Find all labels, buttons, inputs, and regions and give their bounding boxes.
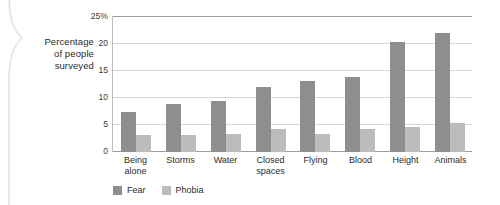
bar-phobia-animals[interactable] [450, 123, 465, 152]
y-tick-label-10: 10 [98, 92, 108, 102]
x-label-blood: Blood [338, 155, 383, 176]
x-label-line: Storms [158, 155, 203, 166]
bar-fear-animals[interactable] [435, 33, 450, 152]
y-tick-label-15: 15 [98, 65, 108, 75]
bar-group-animals [427, 16, 472, 152]
bar-fear-flying[interactable] [300, 81, 315, 152]
chart-screenshot: Percentage of people surveyed 25% 20 15 … [0, 0, 500, 205]
legend-item-phobia[interactable]: Phobia [162, 185, 204, 195]
y-tick-label-5: 5 [103, 119, 108, 129]
legend-item-fear[interactable]: Fear [113, 185, 146, 195]
bar-phobia-flying[interactable] [315, 134, 330, 152]
legend-swatch-fear-icon [113, 186, 122, 195]
x-label-line: Animals [428, 155, 473, 166]
bar-fear-water[interactable] [211, 101, 226, 152]
y-tick-label-20: 20 [98, 38, 108, 48]
chart-legend: Fear Phobia [113, 185, 204, 195]
bar-group-closed-spaces [248, 16, 293, 152]
x-label-height: Height [383, 155, 428, 176]
y-axis-title: Percentage of people surveyed [22, 36, 94, 72]
bar-phobia-closed-spaces[interactable] [271, 129, 286, 152]
bar-phobia-being-alone[interactable] [136, 135, 151, 152]
x-label-animals: Animals [428, 155, 473, 176]
plot-area: 25% 20 15 10 5 0 [112, 16, 472, 152]
legend-label-phobia: Phobia [176, 185, 204, 195]
bar-group-flying [293, 16, 338, 152]
x-label-flying: Flying [293, 155, 338, 176]
bar-group-height [383, 16, 428, 152]
bar-fear-blood[interactable] [345, 77, 360, 152]
x-label-line: Height [383, 155, 428, 166]
y-tick-label-0: 0 [103, 146, 108, 156]
x-label-storms: Storms [158, 155, 203, 176]
x-label-line: Flying [293, 155, 338, 166]
x-axis-labels: Being alone Storms Water Closed spaces F… [113, 155, 473, 176]
x-label-line: spaces [248, 166, 293, 177]
x-label-closed-spaces: Closed spaces [248, 155, 293, 176]
bar-fear-height[interactable] [390, 42, 405, 152]
bar-group-blood [338, 16, 383, 152]
bar-fear-being-alone[interactable] [121, 112, 136, 152]
bar-groups [114, 16, 472, 152]
bar-fear-storms[interactable] [166, 104, 181, 152]
plot-wrapper: 25% 20 15 10 5 0 [112, 16, 472, 152]
bar-group-water [204, 16, 249, 152]
x-label-line: Water [203, 155, 248, 166]
bar-fear-closed-spaces[interactable] [256, 87, 271, 152]
y-axis-title-line-1: Percentage [22, 36, 94, 48]
y-axis-title-line-3: surveyed [22, 60, 94, 72]
x-label-water: Water [203, 155, 248, 176]
bar-group-being-alone [114, 16, 159, 152]
legend-label-fear: Fear [127, 185, 146, 195]
bar-phobia-blood[interactable] [360, 129, 375, 152]
x-label-line: Closed [248, 155, 293, 166]
legend-swatch-phobia-icon [162, 186, 171, 195]
page-edge-artifact [0, 0, 26, 205]
bar-phobia-height[interactable] [405, 127, 420, 152]
bar-phobia-water[interactable] [226, 134, 241, 152]
x-label-line: Being [113, 155, 158, 166]
bar-phobia-storms[interactable] [181, 135, 196, 152]
bar-group-storms [159, 16, 204, 152]
x-label-line: Blood [338, 155, 383, 166]
y-tick-label-25: 25% [91, 11, 108, 21]
y-axis-title-line-2: of people [22, 48, 94, 60]
x-label-being-alone: Being alone [113, 155, 158, 176]
x-label-line: alone [113, 166, 158, 177]
